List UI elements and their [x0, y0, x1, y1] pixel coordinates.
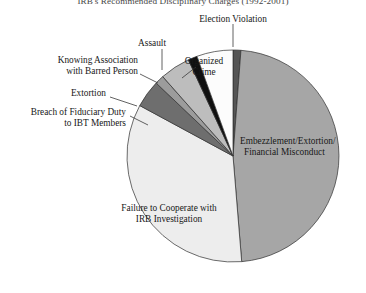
- slice-label-failure-line1: Failure to Cooperate with: [94, 203, 244, 214]
- slice-label-assault: Assault: [86, 38, 166, 49]
- slice-label-embezzlement-line1: Embezzlement/Extortion/: [240, 136, 366, 147]
- slice-label-knowing-association-line1: Knowing Association: [20, 55, 138, 66]
- leader-line-knowing-association: [140, 74, 158, 83]
- slice-label-knowing-association-line2: with Barred Person: [20, 66, 138, 77]
- leader-line-extortion: [110, 97, 137, 106]
- slice-label-embezzlement-line2: Financial Misconduct: [244, 147, 366, 158]
- slice-label-breach-line1: Breach of Fiduciary Duty: [2, 107, 126, 118]
- slice-label-failure-line2: IRB Investigation: [94, 214, 244, 225]
- slice-label-election-violation: Election Violation: [175, 14, 291, 25]
- slice-label-organized-crime-line2: Crime: [168, 67, 240, 78]
- pie-chart-figure: IRB's Recommended Disciplinary Charges (…: [0, 0, 366, 293]
- slice-label-extortion: Extortion: [28, 88, 106, 99]
- slice-label-organized-crime-line1: Organized: [168, 56, 240, 67]
- slice-label-breach-line2: to IBT Members: [2, 118, 126, 129]
